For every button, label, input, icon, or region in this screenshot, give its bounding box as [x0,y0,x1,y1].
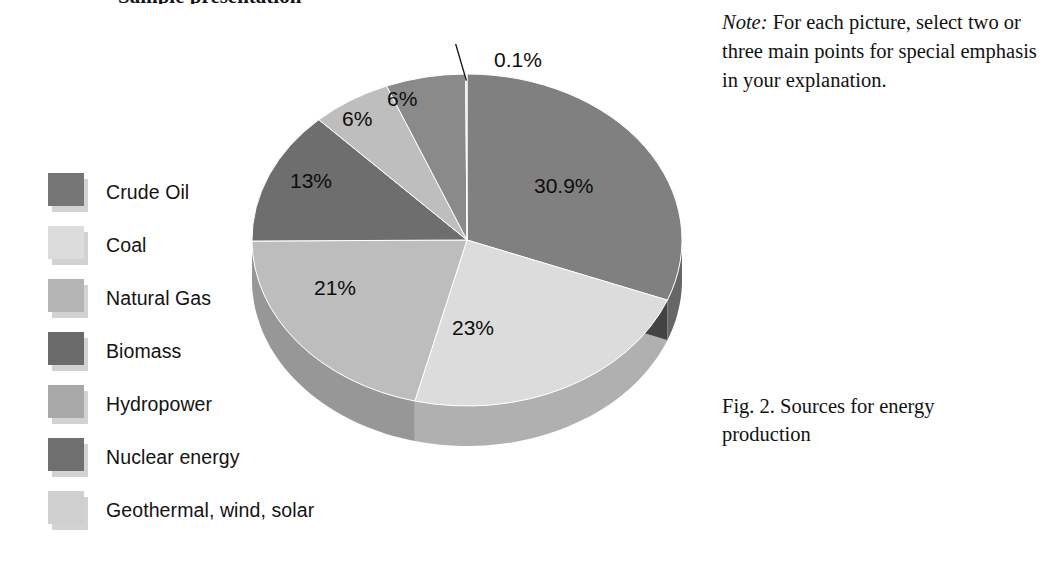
page-heading-remnant: Sample presentation [118,0,418,4]
pie-top-face [252,74,682,406]
legend-swatch-nuclear-energy [48,438,94,478]
legend-label-hydropower: Hydropower [106,393,212,416]
pie-value-label-2: 21% [314,276,356,300]
figure-caption: Fig. 2. Sources for energy production [722,392,1022,448]
pie-value-label-callout: 0.1% [494,48,542,72]
legend-label-nuclear-energy: Nuclear energy [106,446,240,469]
note-body-text: For each picture, select two or three ma… [722,11,1037,91]
legend-label-natural-gas: Natural Gas [106,287,211,310]
pie-value-label-1: 23% [452,316,494,340]
legend-swatch-crude-oil [48,173,94,213]
legend-label-geothermal-wind-solar: Geothermal, wind, solar [106,499,314,522]
legend-swatch-hydropower [48,385,94,425]
pie-chart: 30.9%23%21%13%6%6%0.1% [232,44,702,464]
pie-value-label-3: 13% [290,169,332,193]
legend-swatch-biomass [48,332,94,372]
legend-label-biomass: Biomass [106,340,181,363]
legend-label-coal: Coal [106,234,147,257]
note-block: Note: For each picture, select two or th… [722,8,1042,95]
pie-chart-svg [232,44,702,464]
legend-swatch-coal [48,226,94,266]
legend-item-geothermal-wind-solar[interactable]: Geothermal, wind, solar [48,484,358,537]
pie-value-label-0: 30.9% [534,174,594,198]
pie-value-label-4: 6% [342,107,372,131]
legend-swatch-geothermal-wind-solar [48,491,94,531]
legend-label-crude-oil: Crude Oil [106,181,189,204]
legend-swatch-natural-gas [48,279,94,319]
note-lead-label: Note: [722,11,768,33]
pie-value-label-5: 6% [387,87,417,111]
